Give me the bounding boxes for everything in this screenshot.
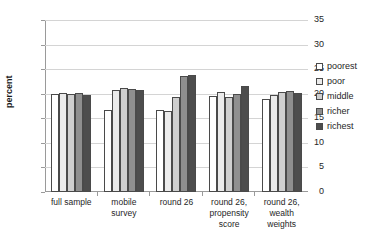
plot-area [45,20,308,192]
y-tick-mark [41,69,45,70]
legend-label: poorest [327,62,357,71]
bar-poor-1 [112,90,120,192]
x-axis-label-line: wealth [256,208,307,219]
legend-label: richer [327,107,350,116]
bar-poor-3 [217,92,225,192]
bar-poor-2 [164,111,172,192]
legend-label: richest [327,122,354,131]
x-tick-mark [202,192,203,196]
bar-middle-1 [120,88,128,192]
x-axis-label-line: survey [99,208,150,219]
legend-item-poorest[interactable]: poorest [316,62,357,71]
legend-item-middle[interactable]: middle [316,92,357,101]
x-axis-label: round 26,wealthweights [255,197,308,230]
bar-middle-3 [225,97,233,192]
x-axis-label: round 26 [150,197,203,230]
x-tick-mark [149,192,150,196]
bar-richest-1 [136,90,144,192]
y-tick-mark [41,118,45,119]
y-tick-label: 35 [302,15,324,24]
y-tick-label: 5 [302,162,324,171]
bar-groups [45,20,308,192]
bar-richer-3 [233,94,241,192]
bar-richest-4 [294,93,302,192]
x-axis-label-line: score [204,219,255,230]
bar-poor-0 [59,93,67,192]
bar-richest-3 [241,86,249,192]
x-tick-mark [97,192,98,196]
x-axis-label-line: propensity [204,208,255,219]
bar-group [203,20,256,192]
x-axis-label-line: weights [256,219,307,230]
y-tick-mark [41,167,45,168]
x-axis-label-line: full sample [46,197,97,208]
bar-group [255,20,308,192]
bar-middle-2 [172,97,180,192]
bar-middle-0 [67,94,75,192]
legend-swatch-icon [316,63,323,70]
bar-group [45,20,98,192]
legend-swatch-icon [316,78,323,85]
legend-item-poor[interactable]: poor [316,77,357,86]
x-axis-label: mobilesurvey [98,197,151,230]
x-axis-label-line: round 26, [256,197,307,208]
x-axis-label-line: mobile [99,197,150,208]
y-tick-label: 0 [302,187,324,196]
y-tick-mark [41,143,45,144]
bar-richer-1 [128,89,136,192]
chart-legend: poorestpoormiddlericherrichest [316,62,357,131]
bar-middle-4 [278,92,286,192]
x-axis-label-line: round 26 [151,197,202,208]
x-axis-label: round 26,propensityscore [203,197,256,230]
bar-poor-4 [270,95,278,192]
x-axis-labels: full samplemobilesurveyround 26round 26,… [45,197,308,230]
y-axis-title: percent [4,94,14,108]
x-axis-label: full sample [45,197,98,230]
y-tick-mark [41,45,45,46]
bar-poorest-1 [104,110,112,192]
bar-poorest-3 [209,96,217,192]
bar-richer-0 [75,93,83,192]
bar-richest-2 [188,75,196,192]
bar-richer-4 [286,91,294,192]
y-tick-label: 30 [302,40,324,49]
y-tick-mark [41,94,45,95]
legend-swatch-icon [316,108,323,115]
legend-label: poor [327,77,345,86]
x-axis-label-line: round 26, [204,197,255,208]
x-tick-mark [254,192,255,196]
bar-group [98,20,151,192]
y-tick-mark [41,20,45,21]
legend-item-richest[interactable]: richest [316,122,357,131]
bar-poorest-0 [51,94,59,192]
y-tick-label: 10 [302,138,324,147]
legend-swatch-icon [316,93,323,100]
y-tick-mark [41,192,45,193]
bar-chart: percent 35302520151050 full samplemobile… [0,0,374,240]
bar-richest-0 [83,95,91,192]
bar-group [150,20,203,192]
bar-poorest-2 [156,110,164,192]
legend-item-richer[interactable]: richer [316,107,357,116]
legend-label: middle [327,92,354,101]
bar-poorest-4 [262,99,270,192]
legend-swatch-icon [316,123,323,130]
bar-richer-2 [180,76,188,192]
